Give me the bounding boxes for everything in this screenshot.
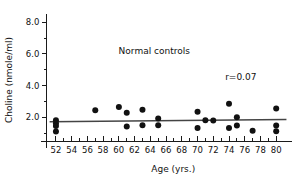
- data-point: [195, 125, 201, 131]
- annotation-correlation: r=0.07: [225, 72, 256, 82]
- y-tick-label: 2.0: [26, 112, 40, 122]
- data-point: [210, 117, 216, 123]
- data-point: [116, 104, 122, 110]
- data-point: [155, 122, 161, 128]
- x-tick-label: 64: [145, 145, 156, 155]
- data-point: [53, 129, 59, 135]
- x-tick-label: 52: [50, 145, 61, 155]
- plot-canvas: 2.04.06.08.05254565860626466687072747678…: [0, 0, 296, 179]
- annotation-group-label: Normal controls: [119, 46, 191, 56]
- x-tick-label: 60: [113, 145, 124, 155]
- x-axis-title: Age (yrs.): [151, 164, 195, 174]
- y-tick-label: 8.0: [26, 17, 40, 27]
- x-tick-label: 72: [208, 145, 219, 155]
- x-tick-label: 66: [161, 145, 172, 155]
- data-point: [155, 116, 161, 122]
- x-tick-label: 56: [82, 145, 93, 155]
- data-point: [234, 114, 240, 120]
- x-tick-label: 80: [271, 145, 282, 155]
- x-tick-label: 76: [239, 145, 250, 155]
- data-point: [273, 128, 279, 134]
- data-point: [124, 110, 130, 116]
- x-tick-label: 62: [129, 145, 140, 155]
- data-point: [124, 123, 130, 129]
- data-point: [250, 128, 256, 134]
- y-tick-label: 6.0: [26, 49, 40, 59]
- data-point: [195, 109, 201, 115]
- data-point: [234, 123, 240, 129]
- data-point: [139, 107, 145, 113]
- data-point: [273, 123, 279, 129]
- x-tick-label: 78: [255, 145, 266, 155]
- data-point: [92, 107, 98, 113]
- x-tick-label: 58: [98, 145, 109, 155]
- data-point: [202, 117, 208, 123]
- x-tick-label: 70: [192, 145, 203, 155]
- x-tick-label: 54: [66, 145, 77, 155]
- data-point: [53, 123, 59, 129]
- regression-line: [50, 120, 287, 122]
- data-point: [273, 106, 279, 112]
- x-tick-label: 74: [223, 145, 234, 155]
- x-tick-label: 68: [176, 145, 187, 155]
- y-axis-title: Choline (nmole/ml): [4, 37, 14, 123]
- data-point: [226, 125, 232, 131]
- data-point: [226, 101, 232, 107]
- y-tick-label: 4.0: [26, 81, 40, 91]
- data-point: [139, 122, 145, 128]
- scatter-plot-figure: 2.04.06.08.05254565860626466687072747678…: [0, 0, 296, 179]
